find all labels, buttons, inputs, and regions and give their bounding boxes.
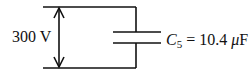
capacitor-subscript: 5 (177, 38, 183, 50)
unit: F (239, 31, 248, 48)
voltage-label: 300 V (12, 29, 51, 45)
voltage-arrow-icon (54, 8, 64, 67)
capacitor-symbol: C (166, 31, 177, 48)
equals-sign: = (186, 31, 195, 48)
capacitance-value: 10.4 (199, 31, 227, 48)
circuit-diagram: 300 V C5 = 10.4 μF (0, 0, 251, 73)
capacitor-label: C5 = 10.4 μF (166, 32, 248, 50)
